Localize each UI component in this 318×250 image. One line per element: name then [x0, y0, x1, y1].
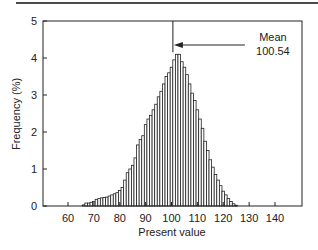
- x-tick-label: 60: [62, 212, 74, 224]
- x-tick-label: 130: [240, 212, 258, 224]
- mean-label: Mean: [259, 31, 287, 43]
- y-tick-label: 5: [31, 15, 37, 27]
- mean-arrowhead: [174, 42, 183, 48]
- mean-value: 100.54: [256, 45, 290, 57]
- y-axis-title: Frequency (%): [10, 78, 22, 150]
- x-tick-label: 100: [162, 212, 180, 224]
- x-tick-label: 120: [214, 212, 232, 224]
- histogram-chart: 012345 60708090100110120130140 Present v…: [0, 0, 318, 250]
- x-axis-title: Present value: [138, 226, 205, 238]
- x-tick-label: 140: [266, 212, 284, 224]
- y-tick-label: 0: [31, 200, 37, 212]
- y-axis: 012345: [31, 15, 47, 212]
- x-tick-label: 90: [140, 212, 152, 224]
- x-tick-label: 110: [189, 212, 207, 224]
- y-tick-label: 3: [31, 89, 37, 101]
- mean-annotation: Mean 100.54: [173, 21, 290, 57]
- x-tick-label: 80: [114, 212, 126, 224]
- x-tick-label: 70: [88, 212, 100, 224]
- y-tick-label: 1: [31, 163, 37, 175]
- bars-group: [82, 54, 237, 206]
- y-tick-label: 2: [31, 126, 37, 138]
- y-tick-label: 4: [31, 52, 37, 64]
